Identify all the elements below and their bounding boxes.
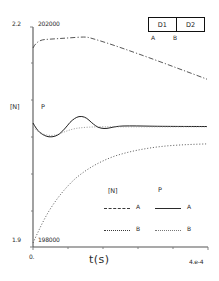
y-right-top-tick-label: 202000 bbox=[38, 20, 60, 27]
domain-key-d1-label: D1 bbox=[149, 18, 176, 31]
series-N-A bbox=[33, 37, 207, 79]
legend-swatch-P-B bbox=[155, 230, 181, 232]
legend-label-N-B: B bbox=[136, 225, 140, 232]
legend-label-P-B: B bbox=[187, 225, 191, 232]
chart-plot-area bbox=[0, 0, 219, 281]
y-axis-right-title: P bbox=[41, 103, 45, 111]
y-axis-left-title: [N] bbox=[10, 103, 19, 111]
figure-canvas: 2.2 202000 1.9 198000 [N] P 0. 4.e-4 t(s… bbox=[0, 0, 219, 281]
legend-label-N-A: A bbox=[136, 203, 140, 210]
domain-key-d2-label: D2 bbox=[177, 18, 204, 31]
series-N-B bbox=[33, 144, 207, 243]
domain-key-box: D1 D2 bbox=[148, 17, 205, 32]
domain-key-marker-a: A bbox=[151, 34, 155, 41]
y-left-top-tick-label: 2.2 bbox=[12, 20, 21, 27]
legend-label-P-A: A bbox=[187, 203, 191, 210]
legend-header-pressure: P bbox=[158, 186, 162, 194]
y-right-bottom-tick-label: 198000 bbox=[38, 236, 60, 243]
domain-key-marker-b: B bbox=[173, 34, 177, 41]
legend-swatch-N-A bbox=[104, 208, 130, 210]
legend-swatch-N-B bbox=[104, 230, 130, 232]
y-left-bottom-tick-label: 1.9 bbox=[12, 236, 21, 243]
x-axis-start-tick-label: 0. bbox=[29, 253, 34, 260]
legend-header-concentration: [N] bbox=[108, 187, 117, 195]
legend-swatch-P-A bbox=[155, 208, 181, 210]
x-axis-title: t(s) bbox=[89, 253, 110, 266]
x-axis-end-tick-label: 4.e-4 bbox=[189, 258, 203, 265]
